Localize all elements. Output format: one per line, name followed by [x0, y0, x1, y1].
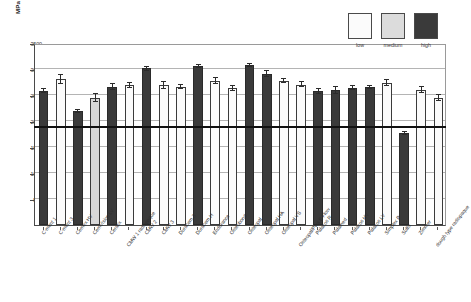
x-tick-mark: [128, 227, 129, 230]
legend-swatches: [348, 13, 438, 39]
legend-swatch-medium: [381, 13, 405, 39]
legend-swatch-high: [414, 13, 438, 39]
reference-line: [34, 126, 446, 128]
x-tick-mark: [437, 227, 438, 230]
legend-label-row: lowmediumhigh: [348, 42, 438, 48]
plot-area: [34, 44, 446, 226]
x-tick-mark: [300, 227, 301, 230]
reference-line-layer: [35, 45, 445, 225]
legend-label-medium: medium: [381, 42, 405, 48]
y-axis-title: MPa: [14, 1, 21, 14]
legend-label-low: low: [348, 42, 372, 48]
legend-label-high: high: [414, 42, 438, 48]
legend: lowmediumhigh: [348, 13, 452, 59]
legend-swatch-low: [348, 13, 372, 39]
